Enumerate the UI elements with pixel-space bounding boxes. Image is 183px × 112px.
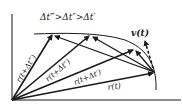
trajectory-curve <box>34 33 156 90</box>
inequality-label: Δt‴>Δt″>Δt′ <box>39 12 96 22</box>
velocity-limit-diagram: Δt‴>Δt″>Δt′ v(t) r(t) r(t+Δt′) r(t+Δt″) … <box>0 0 183 112</box>
label-r-t: r(t) <box>107 81 121 92</box>
label-r-t-dt3: r(t+Δt‴) <box>14 53 38 84</box>
velocity-label: v(t) <box>131 28 149 38</box>
